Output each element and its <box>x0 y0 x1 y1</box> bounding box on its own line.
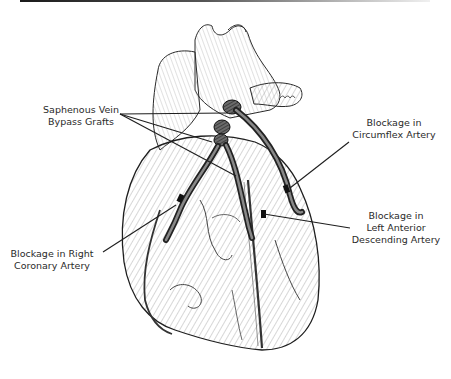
heart-illustration <box>0 0 451 379</box>
label-line: Blockage in Right <box>4 248 100 260</box>
label-line: Saphenous Vein <box>42 104 120 116</box>
leader-graft-1 <box>120 113 228 114</box>
label-line: Bypass Grafts <box>42 116 120 128</box>
leader-circumflex <box>290 142 349 188</box>
label-line: Blockage in <box>346 210 446 222</box>
label-line: Circumflex Artery <box>346 129 442 141</box>
label-line: Coronary Artery <box>4 260 100 272</box>
label-line: Descending Artery <box>346 234 446 246</box>
label-rca-blockage: Blockage in Right Coronary Artery <box>4 248 100 272</box>
label-saphenous-vein-grafts: Saphenous Vein Bypass Grafts <box>42 104 120 128</box>
label-circumflex-blockage: Blockage in Circumflex Artery <box>346 117 442 141</box>
label-line: Left Anterior <box>346 222 446 234</box>
label-line: Blockage in <box>346 117 442 129</box>
label-lad-blockage: Blockage in Left Anterior Descending Art… <box>346 210 446 246</box>
